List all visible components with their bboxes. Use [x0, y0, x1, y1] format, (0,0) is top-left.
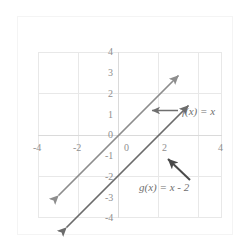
- y-tick-neg2: -2: [105, 172, 113, 182]
- x-tick-neg4: -4: [33, 143, 41, 153]
- y-tick-neg4: -4: [105, 213, 113, 223]
- y-tick-3: 3: [108, 68, 113, 78]
- y-tick-4: 4: [108, 47, 113, 57]
- f-function-label: f(x) = x: [182, 106, 215, 117]
- y-tick-neg1: -1: [105, 151, 113, 161]
- y-tick-2: 2: [108, 89, 113, 99]
- graph-figure: 4 3 2 1 0 -1 -2 -3 -4 -4 -2 0 2 4 f(x) =…: [0, 0, 250, 251]
- y-tick-1: 1: [108, 110, 113, 120]
- x-tick-neg2: -2: [73, 143, 81, 153]
- x-tick-4: 4: [218, 143, 223, 153]
- x-tick-0: 0: [124, 143, 129, 153]
- g-function-label: g(x) = x - 2: [139, 182, 189, 193]
- line-g: [67, 106, 189, 228]
- y-tick-neg3: -3: [105, 193, 113, 203]
- x-tick-2: 2: [162, 143, 167, 153]
- y-tick-0: 0: [108, 130, 113, 140]
- coordinate-plane: [0, 0, 250, 251]
